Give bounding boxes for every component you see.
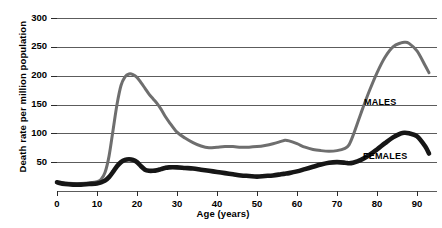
x-tick-label: 60 <box>284 198 310 209</box>
x-tick-label: 80 <box>364 198 390 209</box>
x-tick-label: 30 <box>164 198 190 209</box>
y-tick-label: 100 <box>13 127 47 138</box>
y-tick-label: 300 <box>13 12 47 23</box>
series-lines <box>57 42 429 185</box>
chart-plot-area <box>0 0 442 228</box>
gridlines <box>57 19 437 163</box>
x-axis-title: Age (years) <box>168 208 278 219</box>
x-tick-label: 10 <box>84 198 110 209</box>
series-label-females: FEMALES <box>363 151 407 161</box>
y-tick-label: 150 <box>13 98 47 109</box>
x-tick-label: 20 <box>124 198 150 209</box>
y-tick-label: 50 <box>13 156 47 167</box>
y-tick-marks <box>51 19 57 163</box>
x-tick-label: 40 <box>204 198 230 209</box>
x-tick-label: 0 <box>44 198 70 209</box>
x-tick-label: 90 <box>404 198 430 209</box>
y-tick-label: 200 <box>13 69 47 80</box>
x-tick-label: 50 <box>244 198 270 209</box>
x-tick-label: 70 <box>324 198 350 209</box>
series-label-males: MALES <box>364 97 397 107</box>
chart-figure: Death rate per million population Age (y… <box>0 0 442 228</box>
y-tick-label: 250 <box>13 40 47 51</box>
